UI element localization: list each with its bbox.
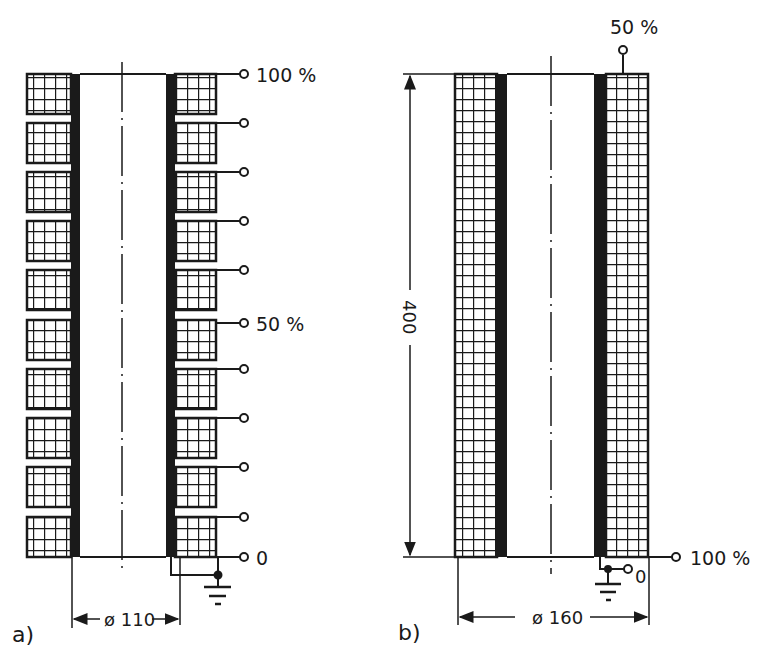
taps-a (216, 70, 248, 561)
left-core-bar-b (497, 74, 507, 557)
figure-label-b: b) (398, 620, 421, 645)
right-core-bar (166, 74, 175, 557)
diameter-label-a: ø 110 (104, 609, 155, 630)
ground-b (595, 557, 632, 600)
figure-a (27, 62, 248, 628)
figure-label-a: a) (12, 622, 34, 647)
right-coil-segments (175, 74, 216, 557)
diameter-label-b: ø 160 (532, 607, 583, 628)
figure-b (403, 46, 680, 625)
tap-label-bottom-b: 100 % (690, 547, 750, 569)
left-coil-segments (27, 74, 71, 557)
tap-label-50: 50 % (256, 313, 304, 335)
tap-label-top-b: 50 % (610, 16, 658, 38)
tap-label-0: 0 (256, 547, 268, 569)
tap-label-100: 100 % (256, 64, 316, 86)
left-coil-b (455, 74, 497, 557)
right-core-bar-b (594, 74, 606, 557)
height-label: 400 (399, 300, 420, 334)
left-core-bar (71, 74, 80, 557)
right-coil-b (606, 74, 648, 557)
tap-label-zero-b: 0 (635, 566, 646, 587)
diagram: 100 % 50 % 0 ø 110 a) (0, 0, 766, 671)
